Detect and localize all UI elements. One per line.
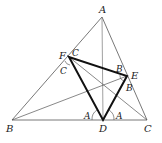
triangle-abc <box>12 17 147 120</box>
label-a: A <box>98 4 106 15</box>
label-b: B <box>5 123 13 134</box>
angle-arc-d-right <box>109 110 114 120</box>
angle-label-e-lower: B <box>125 83 133 93</box>
angle-label-f-lower: C <box>60 66 67 76</box>
label-e: E <box>130 70 139 81</box>
label-c: C <box>144 123 152 134</box>
orthic-triangle-diagram: A B C D E F C C B B A A <box>0 0 162 143</box>
altitude-be <box>12 76 127 120</box>
label-f: F <box>58 50 67 61</box>
label-d: D <box>98 123 107 134</box>
angle-label-e-upper: B <box>115 64 123 74</box>
angle-arc-d-left <box>92 110 97 120</box>
angle-arc-f <box>65 61 70 65</box>
angle-label-d-right: A <box>115 111 123 121</box>
angle-label-d-left: A <box>83 111 91 121</box>
angle-label-f-upper: C <box>72 48 79 58</box>
